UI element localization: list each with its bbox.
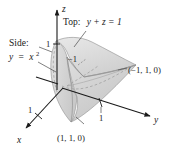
- top-surface-equation: y + z = 1: [86, 17, 122, 27]
- y-axis-label: y: [153, 115, 159, 125]
- side-eq-equals: =: [19, 52, 24, 62]
- y-axis-tick-label: 1: [99, 113, 103, 123]
- x-axis-label: x: [16, 135, 22, 145]
- x-axis-tick-label: 1: [28, 105, 32, 115]
- z-axis-label: z: [61, 4, 66, 14]
- side-surface-prefix: Side:: [9, 38, 29, 48]
- point-110-leader: [76, 117, 84, 124]
- side-eq-base: x: [28, 52, 34, 62]
- three-d-solid-diagram: z y x 1 1 1 −1 Top: y + z = 1 Side: y =: [0, 0, 171, 150]
- point-neg1-1-0-label: (−1, 1, 0): [128, 65, 161, 75]
- negative-one-label: −1: [68, 54, 77, 64]
- solid-body: [51, 37, 136, 122]
- point-1-1-0-label: (1, 1, 0): [57, 133, 85, 143]
- top-surface-annotation: Top: y + z = 1: [63, 17, 122, 27]
- top-surface-prefix: Top:: [63, 17, 80, 27]
- side-eq-exponent: 2: [36, 50, 39, 57]
- side-eq-variable: y: [8, 52, 14, 62]
- z-axis-tick-label: 1: [46, 39, 50, 49]
- figure-container: z y x 1 1 1 −1 Top: y + z = 1 Side: y =: [0, 0, 171, 150]
- side-surface-equation: y = x 2: [8, 50, 39, 62]
